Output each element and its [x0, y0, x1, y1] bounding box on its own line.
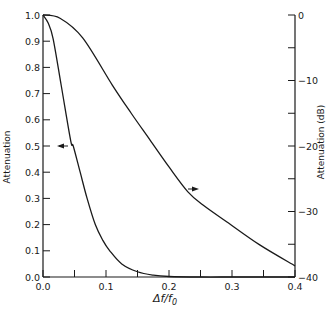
y-right-tick-label: −30 — [298, 206, 318, 217]
y-left-tick-label: 0.7 — [25, 88, 40, 99]
y-left-tick-label: 0.6 — [25, 114, 40, 125]
y-left-tick-label: 0.4 — [25, 167, 40, 178]
y-right-tick-label: −10 — [298, 75, 318, 86]
ticks — [43, 15, 295, 277]
y-left-tick-label: 0.5 — [25, 141, 40, 152]
linear-attenuation-curve — [43, 15, 295, 277]
x-tick-label: 0.3 — [224, 281, 239, 292]
y-left-tick-label: 1.0 — [25, 10, 40, 21]
db-attenuation-curve — [43, 15, 295, 266]
y-left-tick-label: 0.3 — [25, 193, 40, 204]
y-left-tick-label: 0.2 — [25, 219, 40, 230]
y-axis-label-left: Attenuation — [2, 131, 12, 184]
x-tick-label: 0.4 — [287, 281, 302, 292]
x-tick-label: 0.1 — [98, 281, 113, 292]
y-right-tick-label: 0 — [298, 10, 304, 21]
attenuation-chart: 0.00.10.20.30.40.00.10.20.30.40.50.60.70… — [0, 0, 334, 315]
x-axis-label: Δf/f0 — [152, 292, 177, 307]
left-arrow-icon — [57, 144, 68, 149]
tick-labels: 0.00.10.20.30.40.00.10.20.30.40.50.60.70… — [25, 10, 318, 293]
x-tick-label: 0.0 — [35, 281, 50, 292]
y-left-tick-label: 0.8 — [25, 62, 40, 73]
axes — [43, 15, 295, 277]
right-arrow-icon — [188, 187, 199, 192]
curves — [43, 15, 295, 277]
y-axis-label-right: Attenuation (dB) — [316, 105, 326, 180]
x-tick-label: 0.2 — [161, 281, 176, 292]
y-left-tick-label: 0.9 — [25, 36, 40, 47]
y-left-tick-label: 0.0 — [25, 272, 40, 283]
y-right-tick-label: −40 — [298, 272, 318, 283]
y-left-tick-label: 0.1 — [25, 245, 40, 256]
